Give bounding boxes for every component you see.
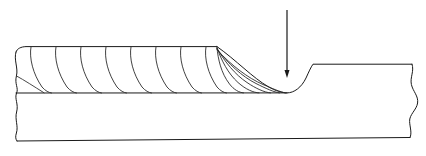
weld-bead-cross-section-diagram (0, 0, 426, 156)
figure-root: Weld bead run-out cross-section (0, 0, 426, 156)
figure-background (0, 0, 426, 156)
